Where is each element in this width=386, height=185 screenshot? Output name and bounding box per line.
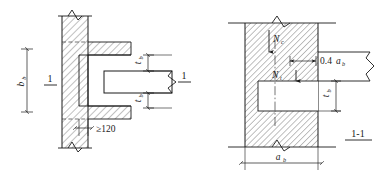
beam-depth-label: t <box>321 94 331 97</box>
dimension-wall-height: b b <box>16 49 33 112</box>
wall-thickness-label: a <box>276 152 281 162</box>
elevation-view: b b 1 1 t b <box>16 10 191 152</box>
dimension-gap-top: t b <box>133 55 172 71</box>
engineering-drawing: b b 1 1 t b <box>0 0 386 185</box>
eccentricity-label-sub: b <box>342 60 345 67</box>
eccentricity-label-var: a <box>336 56 341 66</box>
gap-top-label: t <box>133 61 143 64</box>
force-nc-label: N <box>272 34 280 44</box>
gap-bottom-label: t <box>133 99 143 102</box>
section-title: 1-1 <box>345 128 372 140</box>
figure-canvas: b b 1 1 t b <box>0 0 386 185</box>
section-mark-right: 1 <box>178 70 191 82</box>
dimension-wall-thickness: a b <box>241 147 322 170</box>
beam-depth-label-sub: b <box>325 90 332 93</box>
section-title-label: 1-1 <box>351 128 364 139</box>
section-mark-left: 1 <box>44 73 57 85</box>
beam-outline <box>104 71 172 93</box>
wall-thickness-label-sub: b <box>283 156 286 163</box>
section-beam-recess <box>258 81 318 111</box>
dimension-gap-bottom: t b <box>133 93 172 108</box>
dimension-beam-depth: t b <box>318 81 341 111</box>
section-mark-right-label: 1 <box>182 70 187 81</box>
gap-top-label-sub: b <box>137 57 144 60</box>
wall-height-label: b <box>16 81 26 86</box>
eccentricity-label: 0.4 <box>320 56 332 66</box>
wall-height-label-sub: b <box>20 77 27 80</box>
gap-bottom-label-sub: b <box>137 95 144 98</box>
section-mark-left-label: 1 <box>48 73 53 84</box>
min-bearing-label: ≥120 <box>96 124 116 134</box>
force-nt-label: N <box>271 70 279 80</box>
section-view: N c N t 0.4 a b <box>228 16 374 170</box>
force-nt-label-sub: t <box>280 74 282 81</box>
force-nc-label-sub: c <box>281 38 284 45</box>
